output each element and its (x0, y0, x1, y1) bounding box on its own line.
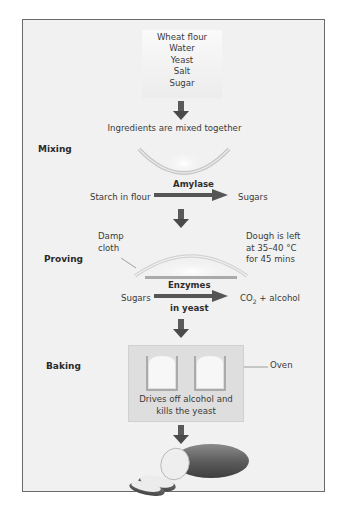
mix-caption: Ingredients are mixed together (23, 123, 326, 135)
down-arrow-icon (173, 209, 189, 229)
right-arrow-icon (154, 189, 228, 201)
down-arrow-icon (173, 319, 189, 339)
ingredient-item: Salt (142, 66, 222, 77)
stage-label-baking: Baking (46, 361, 81, 371)
proving-reactant: Sugars (121, 293, 151, 305)
mixing-reactant: Starch in flour (90, 192, 151, 204)
ingredient-item: Wheat flour (142, 32, 222, 43)
stage-label-proving: Proving (44, 254, 83, 264)
proving-product: CO2 + alcohol (240, 293, 300, 307)
oven-pointer-line (244, 366, 268, 368)
mixing-product: Sugars (238, 192, 268, 204)
right-arrow-icon (154, 290, 228, 302)
oven-box: Drives off alcohol and kills the yeast (128, 345, 244, 422)
diagram-frame: Wheat flour Water Yeast Salt Sugar Ingre… (22, 19, 325, 492)
proving-enzyme-line2: in yeast (170, 303, 209, 315)
bread-tin-icon (145, 354, 179, 392)
dough-tray-icon (121, 246, 261, 282)
ingredient-item: Sugar (142, 78, 222, 89)
ingredient-item: Water (142, 43, 222, 54)
baking-caption: Drives off alcohol and kills the yeast (129, 394, 243, 417)
ingredients-box: Wheat flour Water Yeast Salt Sugar (142, 30, 222, 98)
bowl-icon (136, 147, 232, 177)
stage-label-mixing: Mixing (38, 144, 72, 154)
proving-conditions: Dough is left at 35–40 °C for 45 mins (246, 231, 300, 266)
bread-loaf-icon (123, 442, 253, 494)
bread-tin-icon (193, 354, 227, 392)
oven-label: Oven (270, 360, 293, 372)
ingredient-item: Yeast (142, 55, 222, 66)
down-arrow-icon (173, 101, 189, 121)
cloth-label: Damp cloth (98, 231, 124, 254)
